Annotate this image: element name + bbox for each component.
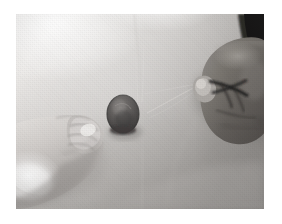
photograph <box>16 14 264 209</box>
photo-scene <box>16 14 264 209</box>
photo-page: Pendulum demonstration photograph Black … <box>0 0 282 224</box>
